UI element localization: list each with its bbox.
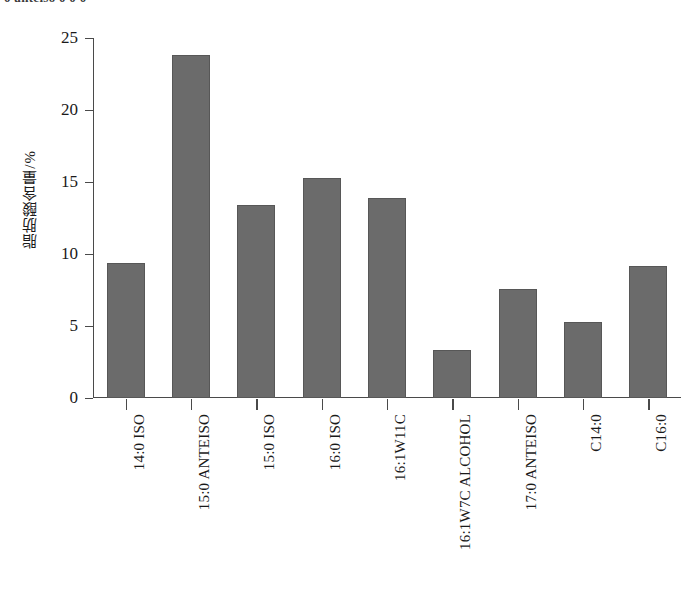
x-axis-tick [583,399,584,410]
bar [433,350,471,398]
x-axis-tick-label: C14:0 [589,414,604,452]
bar [499,289,537,398]
y-axis-tick-label: 20 [38,101,78,118]
y-axis-tick [85,398,93,399]
x-axis-tick [256,399,257,410]
bar [564,322,602,398]
y-axis-tick-label: 0 [38,389,78,406]
bar [107,263,145,398]
plot-area [93,38,681,398]
bar [368,198,406,398]
y-axis-tick-label: 10 [38,245,78,262]
x-axis-tick [648,399,649,410]
fatty-acid-bar-chart: 脂肪酸含量/% 0510152025 14:0 ISO15:0 ANTEISO1… [0,0,688,606]
x-axis-tick-label: 16:1W11C [393,414,408,481]
x-axis-tick [387,399,388,410]
y-axis-title: 脂肪酸含量/% [22,150,46,249]
x-axis-tick-label: 16:0 ISO [328,414,343,470]
x-axis-tick [322,399,323,410]
y-axis-tick [85,326,93,327]
x-axis-tick-label: C16:0 [654,414,669,452]
x-axis-tick-label: 16:1W7C ALCOHOL [458,414,473,550]
x-axis-tick [518,399,519,410]
y-axis-tick-label: 25 [38,29,78,46]
y-axis-tick-label: 5 [38,317,78,334]
x-axis-tick-label: 15:0 ISO [262,414,277,470]
bar [629,266,667,398]
y-axis-tick [85,182,93,183]
y-axis-tick [85,110,93,111]
y-axis-tick-label: 15 [38,173,78,190]
x-axis-tick [191,399,192,410]
bar [237,205,275,398]
x-axis-tick-label: 14:0 ISO [132,414,147,470]
x-axis-tick-label: 15:0 ANTEISO [197,414,212,510]
y-axis-tick [85,254,93,255]
x-axis-tick [126,399,127,410]
x-axis-tick-label: 17:0 ANTEISO [524,414,539,510]
y-axis-tick [85,38,93,39]
bar [303,178,341,398]
x-axis-tick [452,399,453,410]
bar [172,55,210,398]
